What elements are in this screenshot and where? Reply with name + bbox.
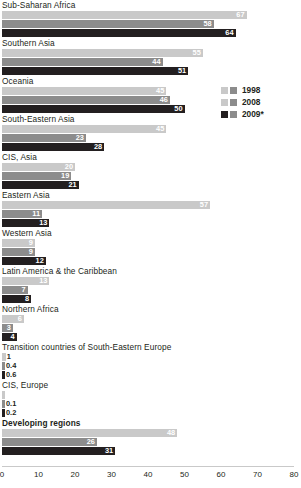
horizontal-bar-chart: Sub-Saharan Africa675864Southern Asia554… <box>0 0 301 488</box>
bar-group-label: Southern Asia <box>0 38 301 49</box>
bar-row: 0.2 <box>2 409 301 417</box>
bar-1998: 1 <box>2 353 6 361</box>
bar-value-label: 58 <box>203 19 211 28</box>
legend-swatch-mid-icon <box>230 87 237 94</box>
bar-2009: 0.6 <box>2 371 5 379</box>
bar-group: CIS, Europe0.10.2 <box>0 380 301 417</box>
bar-value-label: 44 <box>152 57 160 66</box>
axis-tick-label: 10 <box>34 470 43 479</box>
bar-row: 58 <box>2 20 301 28</box>
bar-2009: 21 <box>2 181 79 189</box>
bar-1998: 20 <box>2 163 75 171</box>
bar-row: 44 <box>2 58 301 66</box>
bar-value-label: 1 <box>7 352 11 361</box>
axis-tick-label: 50 <box>180 470 189 479</box>
bar-group-label: Northern Africa <box>0 304 301 315</box>
bar-2008: 9 <box>2 248 35 256</box>
bar-value-label: 9 <box>29 238 33 247</box>
bar-row: 0.6 <box>2 371 301 379</box>
bar-row <box>2 391 301 399</box>
bar-group-bars: 1378 <box>0 277 301 303</box>
bar-group-bars: 0.10.2 <box>0 391 301 417</box>
axis-tick-label: 80 <box>290 470 299 479</box>
bar-value-label: 46 <box>160 95 168 104</box>
bar-value-label: 28 <box>94 142 102 151</box>
bar-row: 11 <box>2 210 301 218</box>
bar-value-label: 26 <box>87 437 95 446</box>
legend-label-2008: 2008 <box>242 96 260 108</box>
legend-swatch-mid-icon <box>230 99 237 106</box>
bar-1998: 13 <box>2 277 49 285</box>
bar-row: 21 <box>2 181 301 189</box>
bar-1998: 55 <box>2 49 203 57</box>
bar-value-label: 21 <box>68 180 76 189</box>
bar-row: 0.1 <box>2 400 301 408</box>
bar-row: 4 <box>2 333 301 341</box>
bar-row: 48 <box>2 429 301 437</box>
bar-1998: 45 <box>2 87 166 95</box>
bar-row: 7 <box>2 286 301 294</box>
bar-value-label: 0.4 <box>6 361 16 370</box>
bar-group: Latin America & the Caribbean1378 <box>0 266 301 303</box>
bar-2009: 4 <box>2 333 17 341</box>
bar-2009: 31 <box>2 447 115 455</box>
bar-group: Southern Asia554451 <box>0 38 301 75</box>
legend-swatch-dark-icon <box>221 111 228 118</box>
bar-value-label: 19 <box>61 171 69 180</box>
axis-tick-label: 60 <box>217 470 226 479</box>
bar-row: 9 <box>2 248 301 256</box>
bar-row: 67 <box>2 11 301 19</box>
bar-row: 13 <box>2 219 301 227</box>
bar-1998: 6 <box>2 315 24 323</box>
bar-value-label: 57 <box>200 200 208 209</box>
bar-value-label: 23 <box>76 133 84 142</box>
bar-group-label: Developing regions <box>0 418 301 429</box>
bar-group: Transition countries of South-Eastern Eu… <box>0 342 301 379</box>
bar-group-label: CIS, Asia <box>0 152 301 163</box>
axis-line <box>2 466 294 467</box>
bar-row: 6 <box>2 315 301 323</box>
bar-value-label: 11 <box>32 209 40 218</box>
bar-row: 55 <box>2 49 301 57</box>
bar-value-label: 64 <box>225 28 233 37</box>
bar-group-bars: 482631 <box>0 429 301 455</box>
bar-value-label: 45 <box>156 124 164 133</box>
bar-2008: 46 <box>2 96 170 104</box>
bar-row: 8 <box>2 295 301 303</box>
bar-group: Developing regions482631 <box>0 418 301 455</box>
bar-value-label: 45 <box>156 86 164 95</box>
bar-group-bars: 675864 <box>0 11 301 37</box>
axis-tick-label: 40 <box>144 470 153 479</box>
bar-row: 0.4 <box>2 362 301 370</box>
bar-row: 28 <box>2 143 301 151</box>
bar-value-label: 20 <box>65 162 73 171</box>
bar-row: 26 <box>2 438 301 446</box>
bar-2008: 11 <box>2 210 42 218</box>
bar-row: 31 <box>2 447 301 455</box>
bar-group-bars: 571113 <box>0 201 301 227</box>
bar-2008: 0.4 <box>2 362 5 370</box>
legend-item-1998: 1998 <box>221 84 264 96</box>
bar-row: 20 <box>2 163 301 171</box>
bar-group-bars: 10.40.6 <box>0 353 301 379</box>
bar-2008: 3 <box>2 324 13 332</box>
bar-value-label: 7 <box>21 285 25 294</box>
bar-row: 57 <box>2 201 301 209</box>
bar-value-label: 0.1 <box>6 399 16 408</box>
bar-group-bars: 554451 <box>0 49 301 75</box>
bar-value-label: 4 <box>10 332 14 341</box>
legend-item-2009: 2009* <box>221 108 264 120</box>
bar-group-bars: 452328 <box>0 125 301 151</box>
bar-value-label: 48 <box>167 428 175 437</box>
bar-value-label: 13 <box>39 276 47 285</box>
axis-tick-label: 70 <box>253 470 262 479</box>
bar-2008: 0.1 <box>2 400 5 408</box>
bar-2009: 28 <box>2 143 104 151</box>
bar-2009: 13 <box>2 219 49 227</box>
x-axis: 01020304050607080 <box>0 466 301 488</box>
bar-2009: 12 <box>2 257 46 265</box>
plot-area: Sub-Saharan Africa675864Southern Asia554… <box>0 0 301 455</box>
bar-group: Western Asia9912 <box>0 228 301 265</box>
bar-2009: 0.2 <box>2 409 5 417</box>
bar-row: 51 <box>2 67 301 75</box>
